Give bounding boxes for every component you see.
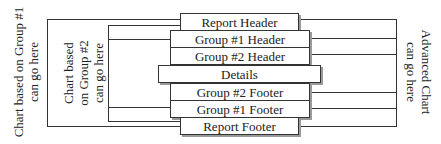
left-outer-label: Chart based on Group #1 can go here xyxy=(11,7,41,138)
report-footer-section: Report Footer xyxy=(180,117,299,135)
section-label: Group #1 Footer xyxy=(197,103,284,116)
right-bracket-g1h xyxy=(309,38,397,39)
right-label: Advanced Chart can go here xyxy=(404,30,434,115)
right-bracket-g2h xyxy=(309,54,397,55)
group2-footer-section: Group #2 Footer xyxy=(170,83,310,101)
group2-header-section: Group #2 Header xyxy=(170,47,310,65)
section-label: Report Footer xyxy=(203,120,276,133)
report-header-section: Report Header xyxy=(180,13,299,31)
group1-header-section: Group #1 Header xyxy=(170,30,310,48)
right-bracket-g2f xyxy=(309,92,397,93)
left-inner-bracket-top xyxy=(108,25,181,26)
section-label: Group #1 Header xyxy=(195,33,285,46)
left-inner-bracket-g1h xyxy=(108,39,170,40)
left-inner-bracket-bottom xyxy=(108,121,181,122)
left-inner-bracket-g1f xyxy=(108,107,170,108)
left-outer-bracket-vertical xyxy=(47,19,48,127)
section-label: Details xyxy=(221,68,258,81)
right-bracket-vertical xyxy=(396,19,397,127)
section-label: Group #2 Header xyxy=(195,50,285,63)
left-inner-label: Chart based on Group #2 can go here xyxy=(61,40,106,106)
section-label: Group #2 Footer xyxy=(197,86,284,99)
section-label: Report Header xyxy=(201,16,277,29)
right-bracket-top xyxy=(298,19,397,20)
details-section: Details xyxy=(158,65,321,83)
right-bracket-bottom xyxy=(298,126,397,127)
left-outer-bracket-bottom xyxy=(47,126,181,127)
right-bracket-g1f xyxy=(309,108,397,109)
left-outer-bracket-top xyxy=(47,19,181,20)
group1-footer-section: Group #1 Footer xyxy=(170,100,310,118)
